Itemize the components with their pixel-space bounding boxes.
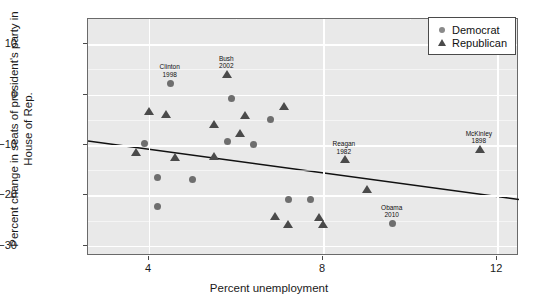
data-point-republican xyxy=(283,220,293,228)
data-point-democrat xyxy=(285,196,292,203)
x-tick-label-12: 12 xyxy=(490,262,502,274)
data-point-democrat xyxy=(228,95,235,102)
annotation-year: 2010 xyxy=(381,211,402,219)
data-point-republican xyxy=(279,102,289,110)
point-annotation-reagan: Reagan1982 xyxy=(332,140,355,155)
gridline-x-4 xyxy=(149,19,151,254)
data-point-democrat xyxy=(141,140,148,147)
gridline-y-minor--5 xyxy=(88,120,517,121)
x-axis-label: Percent unemployment xyxy=(0,282,538,294)
data-point-democrat xyxy=(189,176,196,183)
legend-label-democrat: Democrat xyxy=(452,24,500,36)
data-point-republican xyxy=(240,111,250,119)
legend-item-republican: Republican xyxy=(435,36,507,49)
data-point-republican xyxy=(235,129,245,137)
data-point-republican xyxy=(170,153,180,161)
y-tick-label-10: 10 xyxy=(5,37,17,49)
data-point-democrat xyxy=(154,174,161,181)
annotation-year: 1898 xyxy=(466,137,492,145)
gridline-y--30 xyxy=(88,246,517,248)
legend-label-republican: Republican xyxy=(452,37,507,49)
annotation-name: Obama xyxy=(381,204,402,212)
data-point-republican xyxy=(340,155,350,163)
data-point-democrat xyxy=(250,141,257,148)
gridline-y-0 xyxy=(88,95,517,97)
x-tick-mark-4 xyxy=(148,256,149,260)
y-tick-mark--20 xyxy=(83,194,87,195)
x-tick-label-4: 4 xyxy=(145,262,151,274)
y-tick-mark--10 xyxy=(83,144,87,145)
x-tick-label-8: 8 xyxy=(319,262,325,274)
data-point-democrat xyxy=(154,203,161,210)
republican-triangle-icon xyxy=(435,39,449,46)
gridline-y--10 xyxy=(88,145,517,147)
y-tick-label--20: −20 xyxy=(0,188,17,200)
gridline-x-minor-2 xyxy=(62,19,63,20)
data-point-republican xyxy=(209,152,219,160)
y-tick-mark--30 xyxy=(83,245,87,246)
gridline-y-minor--25 xyxy=(88,221,517,222)
data-point-republican xyxy=(209,120,219,128)
data-point-democrat xyxy=(167,80,174,87)
data-point-republican xyxy=(161,110,171,118)
data-point-republican xyxy=(318,220,328,228)
point-annotation-clinton: Clinton1998 xyxy=(160,63,180,78)
data-point-republican xyxy=(270,212,280,220)
democrat-circle-icon xyxy=(435,27,449,33)
point-annotation-bush: Bush2002 xyxy=(219,55,234,70)
annotation-name: Bush xyxy=(219,55,234,63)
annotation-name: Reagan xyxy=(332,140,355,148)
annotation-name: Clinton xyxy=(160,63,180,71)
data-point-republican xyxy=(131,148,141,156)
scatter-plot-figure: Percent change in seats of president's p… xyxy=(0,0,538,306)
annotation-year: 1998 xyxy=(160,71,180,79)
data-point-democrat xyxy=(307,196,314,203)
y-tick-label--30: −30 xyxy=(0,239,17,251)
data-point-republican xyxy=(222,70,232,78)
gridline-y-minor-5 xyxy=(88,69,517,70)
gridline-y--20 xyxy=(88,195,517,197)
y-tick-label--10: −10 xyxy=(0,138,17,150)
annotation-year: 2002 xyxy=(219,62,234,70)
data-point-republican xyxy=(144,107,154,115)
y-tick-mark-0 xyxy=(83,94,87,95)
data-point-republican xyxy=(475,145,485,153)
data-point-democrat xyxy=(224,138,231,145)
y-tick-mark-10 xyxy=(83,43,87,44)
data-point-republican xyxy=(362,185,372,193)
gridline-x-minor-6 xyxy=(236,19,237,20)
annotation-name: McKinley xyxy=(466,130,492,138)
legend: Democrat Republican xyxy=(428,17,516,55)
point-annotation-mckinley: McKinley1898 xyxy=(466,130,492,145)
x-tick-mark-12 xyxy=(496,256,497,260)
gridline-y-minor--15 xyxy=(88,170,517,171)
data-point-democrat xyxy=(267,116,274,123)
annotation-year: 1982 xyxy=(332,148,355,156)
y-tick-label-0: 0 xyxy=(11,88,17,100)
point-annotation-obama: Obama2010 xyxy=(381,204,402,219)
legend-item-democrat: Democrat xyxy=(435,23,507,36)
x-tick-mark-8 xyxy=(322,256,323,260)
gridline-x-minor-10 xyxy=(410,19,411,20)
data-point-democrat xyxy=(389,220,396,227)
